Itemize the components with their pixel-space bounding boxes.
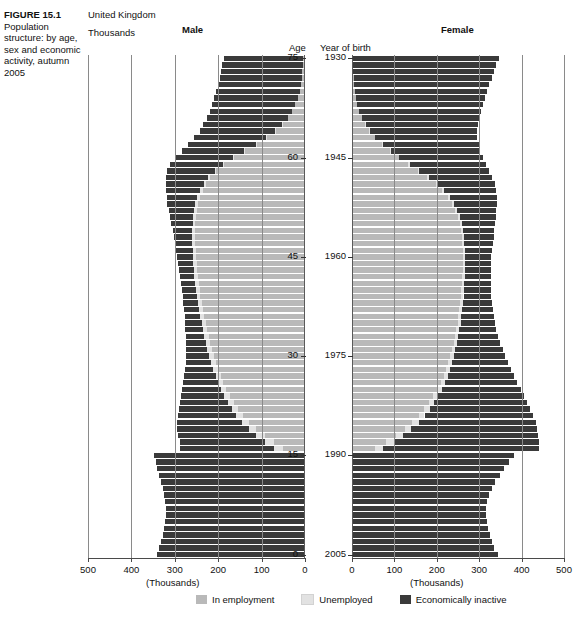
year-of-birth-tick-label-1975: 1975 xyxy=(314,349,346,360)
bar-segment-unemployed xyxy=(199,307,203,312)
table-row xyxy=(88,539,305,544)
bar-segment-economically-inactive xyxy=(403,433,538,438)
table-row xyxy=(88,175,305,180)
bar-segment-in-employment xyxy=(352,274,462,279)
bar-segment-in-employment xyxy=(352,413,419,418)
bar-segment-in-employment xyxy=(352,373,444,378)
table-row xyxy=(352,387,564,392)
bar-segment-unemployed xyxy=(375,446,383,451)
table-row xyxy=(352,175,564,180)
bar-segment-economically-inactive xyxy=(442,387,521,392)
bar-segment-economically-inactive xyxy=(352,486,492,491)
legend-label-unemployed: Unemployed xyxy=(319,594,372,605)
table-row xyxy=(352,62,564,67)
table-row xyxy=(88,89,305,94)
bar-segment-economically-inactive xyxy=(163,486,305,491)
bar-segment-economically-inactive xyxy=(188,142,255,147)
bar-segment-economically-inactive xyxy=(166,188,200,193)
gridline-500 xyxy=(564,55,565,558)
table-row xyxy=(352,294,564,299)
bar-segment-in-employment xyxy=(243,413,305,418)
bar-segment-economically-inactive xyxy=(165,519,305,524)
table-row xyxy=(352,109,564,114)
bar-segment-economically-inactive xyxy=(391,148,481,153)
bar-segment-economically-inactive xyxy=(429,175,493,180)
bar-segment-economically-inactive xyxy=(175,241,192,246)
bar-segment-unemployed xyxy=(200,188,202,193)
bar-segment-economically-inactive xyxy=(182,387,221,392)
table-row xyxy=(352,82,564,87)
x-tick-mark-100 xyxy=(262,558,263,562)
bar-segment-in-employment xyxy=(352,353,450,358)
bar-segment-in-employment xyxy=(352,195,448,200)
bar-segment-unemployed xyxy=(195,201,198,206)
table-row xyxy=(352,327,564,332)
bar-segment-in-employment xyxy=(223,380,305,385)
bar-segment-in-employment xyxy=(352,261,463,266)
bar-segment-in-employment xyxy=(230,393,305,398)
table-row xyxy=(352,69,564,74)
table-row xyxy=(88,287,305,292)
table-row xyxy=(88,214,305,219)
bar-segment-in-employment xyxy=(352,267,463,272)
x-tick-label-300: 300 xyxy=(459,564,499,575)
table-row xyxy=(352,228,564,233)
bar-segment-economically-inactive xyxy=(457,208,496,213)
table-row xyxy=(88,195,305,200)
bar-segment-economically-inactive xyxy=(461,320,495,325)
table-row xyxy=(352,300,564,305)
age-tick-label-15: 15 xyxy=(272,448,298,459)
table-row xyxy=(88,274,305,279)
table-row xyxy=(352,499,564,504)
legend-item-in_employment: In employment xyxy=(196,594,274,605)
bar-segment-in-employment xyxy=(198,274,305,279)
table-row xyxy=(352,426,564,431)
table-row xyxy=(88,479,305,484)
table-row xyxy=(88,122,305,127)
male-axis-units-label: (Thousands) xyxy=(146,577,199,588)
table-row xyxy=(88,512,305,517)
bar-segment-economically-inactive xyxy=(438,393,524,398)
bar-segment-economically-inactive xyxy=(163,532,305,537)
bar-segment-economically-inactive xyxy=(178,261,193,266)
bar-segment-in-employment xyxy=(352,142,382,147)
bar-segment-unemployed xyxy=(211,360,216,365)
table-row xyxy=(352,214,564,219)
bar-segment-economically-inactive xyxy=(353,69,494,74)
bar-segment-in-employment xyxy=(352,188,442,193)
table-row xyxy=(88,360,305,365)
bar-segment-economically-inactive xyxy=(463,300,492,305)
table-row xyxy=(352,347,564,352)
figure-number: FIGURE 15.1 xyxy=(4,9,82,21)
table-row xyxy=(88,162,305,167)
bar-segment-unemployed xyxy=(207,347,212,352)
bar-segment-economically-inactive xyxy=(375,135,477,140)
table-row xyxy=(88,406,305,411)
bar-segment-economically-inactive xyxy=(182,148,244,153)
table-row xyxy=(352,267,564,272)
bar-segment-economically-inactive xyxy=(352,479,495,484)
gridline-100 xyxy=(394,55,395,558)
bar-segment-unemployed xyxy=(193,248,196,253)
bar-segment-unemployed xyxy=(197,294,200,299)
bar-segment-economically-inactive xyxy=(212,102,295,107)
bar-segment-economically-inactive xyxy=(354,82,489,87)
bar-segment-in-employment xyxy=(198,201,305,206)
bar-segment-economically-inactive xyxy=(370,128,478,133)
table-row xyxy=(88,188,305,193)
age-tick-mark-75 xyxy=(301,58,306,59)
table-row xyxy=(352,314,564,319)
bar-segment-economically-inactive xyxy=(185,320,201,325)
bar-segment-economically-inactive xyxy=(357,102,483,107)
bar-segment-unemployed xyxy=(192,228,195,233)
table-row xyxy=(88,102,305,107)
x-tick-mark-200 xyxy=(437,558,438,562)
female-panel-title: Female xyxy=(441,24,474,35)
table-row xyxy=(352,188,564,193)
year-of-birth-tick-label-1960: 1960 xyxy=(314,250,346,261)
bar-segment-economically-inactive xyxy=(180,439,265,444)
table-row xyxy=(352,479,564,484)
table-row xyxy=(88,281,305,286)
table-row xyxy=(88,69,305,74)
table-row xyxy=(352,519,564,524)
